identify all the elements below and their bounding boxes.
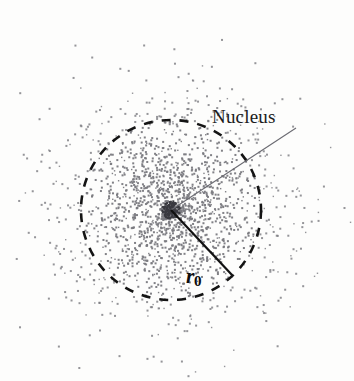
cloud-dot bbox=[112, 215, 113, 216]
cloud-dot bbox=[194, 253, 196, 255]
cloud-dot bbox=[76, 280, 78, 282]
cloud-dot bbox=[166, 251, 168, 253]
cloud-dot bbox=[171, 239, 173, 241]
cloud-dot bbox=[222, 239, 224, 241]
cloud-dot bbox=[69, 207, 71, 209]
cloud-dot bbox=[179, 129, 181, 131]
cloud-dot bbox=[156, 167, 158, 169]
cloud-dot bbox=[127, 169, 129, 171]
cloud-dot bbox=[277, 271, 278, 272]
cloud-dot bbox=[285, 195, 287, 197]
cloud-dot bbox=[192, 211, 194, 213]
cloud-dot bbox=[156, 173, 158, 175]
cloud-dot bbox=[195, 371, 196, 372]
cloud-dot bbox=[177, 319, 179, 321]
cloud-dot bbox=[95, 111, 97, 113]
cloud-dot bbox=[141, 170, 143, 172]
cloud-dot bbox=[178, 252, 180, 254]
cloud-dot bbox=[290, 258, 292, 260]
cloud-dot bbox=[202, 152, 204, 154]
cloud-dot bbox=[132, 201, 134, 203]
cloud-dot bbox=[264, 208, 265, 209]
cloud-dot bbox=[178, 180, 180, 182]
cloud-dot bbox=[181, 233, 183, 235]
cloud-dot bbox=[130, 132, 132, 134]
cloud-dot bbox=[203, 259, 205, 261]
cloud-dot bbox=[188, 102, 190, 104]
cloud-dot bbox=[135, 178, 137, 180]
cloud-dot bbox=[179, 282, 180, 283]
cloud-dot bbox=[116, 215, 118, 217]
cloud-dot bbox=[132, 256, 134, 258]
cloud-dot bbox=[190, 240, 192, 242]
cloud-dot bbox=[151, 97, 153, 99]
cloud-dot bbox=[147, 315, 148, 316]
cloud-dot bbox=[145, 209, 146, 210]
cloud-dot bbox=[190, 212, 192, 214]
cloud-dot bbox=[187, 182, 189, 184]
cloud-dot bbox=[113, 274, 115, 276]
cloud-dot bbox=[133, 172, 135, 174]
cloud-dot bbox=[201, 261, 203, 263]
cloud-dot bbox=[154, 243, 156, 245]
cloud-dot bbox=[202, 65, 203, 66]
cloud-dot bbox=[178, 76, 180, 78]
cloud-dot bbox=[142, 214, 144, 216]
cloud-dot bbox=[128, 248, 130, 250]
cloud-dot bbox=[269, 244, 271, 246]
cloud-dot bbox=[123, 279, 125, 281]
cloud-dot bbox=[172, 121, 173, 122]
cloud-dot bbox=[224, 227, 226, 229]
cloud-dot bbox=[164, 193, 166, 195]
cloud-dot bbox=[223, 256, 225, 258]
cloud-dot bbox=[144, 232, 146, 234]
cloud-dot bbox=[159, 160, 161, 162]
cloud-dot bbox=[209, 258, 210, 259]
cloud-dot bbox=[216, 156, 218, 158]
cloud-dot bbox=[159, 163, 161, 165]
cloud-dot bbox=[230, 173, 232, 175]
cloud-dot bbox=[147, 229, 149, 231]
cloud-dot bbox=[89, 274, 91, 276]
cloud-dot bbox=[195, 169, 197, 171]
cloud-dot bbox=[134, 242, 136, 244]
cloud-dot bbox=[209, 299, 211, 301]
cloud-dot bbox=[248, 235, 250, 237]
cloud-dot bbox=[175, 246, 177, 248]
cloud-dot bbox=[122, 129, 124, 131]
nucleus-core-dot bbox=[167, 209, 169, 211]
cloud-dot bbox=[74, 133, 76, 135]
cloud-dot bbox=[123, 211, 125, 213]
cloud-dot bbox=[292, 190, 294, 192]
cloud-dot bbox=[226, 175, 228, 177]
cloud-dot bbox=[165, 223, 167, 225]
cloud-dot bbox=[173, 48, 175, 50]
cloud-dot bbox=[89, 257, 91, 259]
cloud-dot bbox=[108, 195, 110, 197]
cloud-dot bbox=[221, 150, 223, 152]
cloud-dot bbox=[49, 108, 51, 110]
cloud-dot bbox=[161, 257, 163, 259]
cloud-dot bbox=[206, 199, 207, 200]
cloud-dot bbox=[205, 134, 206, 135]
cloud-dot bbox=[110, 154, 112, 156]
cloud-dot bbox=[163, 308, 164, 309]
cloud-dot bbox=[251, 195, 252, 196]
cloud-dot bbox=[92, 139, 93, 140]
cloud-dot bbox=[141, 233, 143, 235]
cloud-dot bbox=[127, 101, 128, 102]
cloud-dot bbox=[160, 285, 162, 287]
cloud-dot bbox=[241, 200, 242, 201]
cloud-dot bbox=[232, 287, 234, 289]
cloud-dot bbox=[198, 128, 200, 130]
cloud-dot bbox=[61, 183, 63, 185]
cloud-dot bbox=[180, 271, 182, 273]
cloud-dot bbox=[161, 168, 163, 170]
cloud-dot bbox=[172, 244, 174, 246]
cloud-dot bbox=[136, 181, 137, 182]
cloud-dot bbox=[188, 158, 190, 160]
cloud-dot bbox=[179, 139, 181, 141]
cloud-dot bbox=[177, 250, 179, 252]
cloud-dot bbox=[197, 233, 199, 235]
cloud-dot bbox=[188, 203, 189, 204]
